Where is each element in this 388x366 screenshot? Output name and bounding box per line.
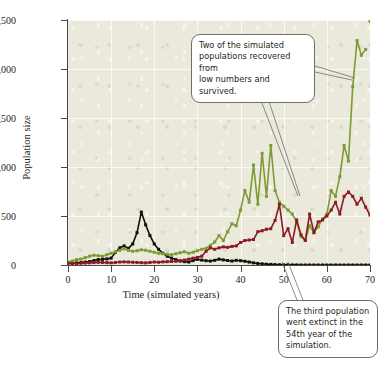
- population-red-survived-marker: [356, 203, 359, 206]
- population-red-survived-marker: [161, 260, 164, 263]
- population-red-survived-marker: [101, 261, 104, 264]
- population-green-survived-marker: [144, 249, 147, 252]
- x-tick-label: 0: [66, 274, 71, 285]
- population-red-survived-marker: [110, 261, 113, 264]
- y-axis-title: Population size: [21, 78, 32, 218]
- y-tick-label: 1,000: [0, 162, 16, 173]
- population-green-survived-marker: [114, 250, 117, 253]
- population-green-survived-marker: [140, 248, 143, 251]
- population-red-survived-marker: [170, 260, 173, 263]
- population-green-survived-marker: [148, 250, 151, 253]
- population-red-survived-marker: [222, 245, 225, 248]
- y-tick-label: 2,500: [0, 15, 16, 26]
- population-black-extinct-marker: [243, 260, 246, 263]
- population-green-survived-marker: [218, 234, 221, 237]
- population-green-survived-marker: [84, 256, 87, 259]
- population-black-extinct-marker: [170, 257, 173, 260]
- population-green-survived-marker: [187, 252, 190, 255]
- population-black-extinct-marker: [144, 223, 147, 226]
- population-black-extinct-marker: [248, 261, 251, 264]
- population-green-survived-marker: [79, 258, 82, 261]
- x-tick-mark: [68, 266, 69, 272]
- population-black-extinct-marker: [101, 258, 104, 261]
- population-red-survived-marker: [196, 256, 199, 259]
- population-red-survived-marker: [105, 261, 108, 264]
- population-black-extinct-marker: [252, 261, 255, 264]
- population-black-extinct-marker: [136, 231, 139, 234]
- population-red-survived-marker: [144, 261, 147, 264]
- population-green-survived-marker: [269, 144, 272, 147]
- population-green-survived-marker: [343, 144, 346, 147]
- population-black-extinct-marker: [110, 257, 113, 260]
- population-green-survived-marker: [338, 175, 341, 178]
- x-tick-label: 20: [149, 274, 159, 285]
- x-tick-mark: [241, 266, 242, 272]
- population-red-survived-marker: [243, 239, 246, 242]
- population-green-survived-marker: [97, 254, 100, 257]
- population-green-survived-marker: [222, 239, 225, 242]
- x-tick-label: 60: [322, 274, 332, 285]
- population-red-survived-marker: [200, 255, 203, 258]
- population-green-survived-marker: [205, 247, 208, 250]
- population-red-survived-marker: [127, 261, 130, 264]
- y-tick-label: 500: [1, 211, 16, 222]
- population-red-survived-marker: [192, 257, 195, 260]
- population-green-survived-marker: [235, 224, 238, 227]
- callout-extinct-line-0: The third population: [286, 306, 370, 317]
- population-green-survived-marker: [170, 253, 173, 256]
- population-green-survived-marker: [282, 205, 285, 208]
- population-red-survived-marker: [291, 241, 294, 244]
- y-tick-mark: [61, 118, 68, 119]
- callout-recovered-line-0: Two of the simulated: [199, 40, 307, 51]
- population-red-survived-marker: [252, 238, 255, 241]
- population-red-survived-marker: [153, 261, 156, 264]
- population-red-survived-marker: [334, 201, 337, 204]
- population-green-survived-marker: [261, 152, 264, 155]
- population-black-extinct-marker: [157, 248, 160, 251]
- population-red-survived-marker: [123, 260, 126, 263]
- x-tick-mark: [111, 266, 112, 272]
- population-red-survived-marker: [295, 218, 298, 221]
- population-green-survived-marker: [226, 230, 229, 233]
- y-tick-label: 1,500: [0, 113, 16, 124]
- y-tick-mark: [61, 265, 68, 266]
- x-tick-label: 10: [106, 274, 116, 285]
- population-red-survived: [68, 190, 370, 265]
- population-black-extinct-marker: [123, 244, 126, 247]
- population-red-survived-marker: [287, 227, 290, 230]
- population-green-survived-marker: [183, 250, 186, 253]
- population-red-survived-marker: [114, 261, 117, 264]
- population-red-survived-marker: [239, 241, 242, 244]
- callout-extinct: The third population went extinct in the…: [278, 300, 378, 358]
- population-green-survived-marker: [230, 222, 233, 225]
- x-axis-title-text: Time (simulated years): [122, 289, 265, 300]
- population-red-survived-marker: [230, 245, 233, 248]
- population-red-survived-marker: [282, 234, 285, 237]
- population-green-survived-marker: [364, 48, 367, 51]
- population-green-survived-marker: [153, 251, 156, 254]
- x-tick-label: 70: [365, 274, 375, 285]
- population-red-survived-marker: [369, 214, 371, 217]
- population-green-survived-marker: [200, 248, 203, 251]
- population-red-survived-marker: [265, 228, 268, 231]
- population-black-extinct-marker: [105, 257, 108, 260]
- population-red-survived-marker: [218, 246, 221, 249]
- population-green-survived-marker: [127, 249, 130, 252]
- population-black-extinct-marker: [153, 242, 156, 245]
- population-green-survived-marker: [351, 85, 354, 88]
- population-red-survived-marker: [97, 261, 100, 264]
- x-axis-line: [67, 265, 371, 266]
- population-green-survived-marker: [252, 164, 255, 167]
- population-red-survived-marker: [312, 231, 315, 234]
- population-red-survived-marker: [131, 261, 134, 264]
- y-tick-mark: [61, 167, 68, 168]
- population-red-survived-marker: [174, 260, 177, 263]
- population-black-extinct-marker: [235, 259, 238, 262]
- population-red-survived-marker: [187, 258, 190, 261]
- population-red-survived-marker: [179, 259, 182, 262]
- population-red-survived-marker: [321, 218, 324, 221]
- population-black-extinct-marker: [131, 242, 134, 245]
- population-green-survived-marker: [157, 252, 160, 255]
- callout-extinct-line-1: went extinct in the: [286, 317, 370, 328]
- population-green-survived-marker: [105, 253, 108, 256]
